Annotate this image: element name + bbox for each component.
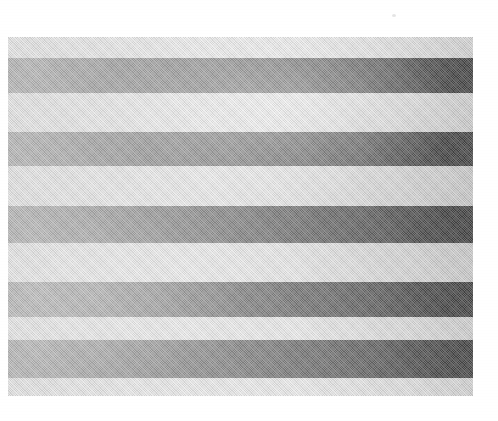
dark-stripe-2 <box>8 132 473 166</box>
light-stripe-1 <box>8 37 473 58</box>
striped-gradient-plate <box>8 37 473 396</box>
dark-stripe-1 <box>8 58 473 93</box>
light-stripe-3 <box>8 166 473 206</box>
page-canvas <box>0 0 498 421</box>
light-stripe-4 <box>8 243 473 282</box>
light-stripe-6 <box>8 378 473 396</box>
dark-stripe-5 <box>8 340 473 378</box>
dark-stripe-4 <box>8 282 473 317</box>
light-stripe-2 <box>8 93 473 132</box>
dark-stripe-3 <box>8 206 473 243</box>
scan-speck <box>392 14 396 17</box>
light-stripe-5 <box>8 317 473 340</box>
